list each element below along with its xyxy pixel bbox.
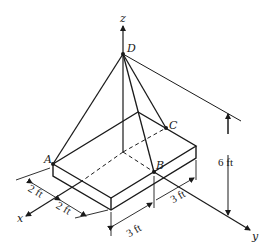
dim-2ft-2: 2 ft — [54, 199, 73, 217]
point-C — [164, 126, 168, 130]
dim-3ft-1: 3 ft — [124, 221, 143, 239]
point-markers — [51, 52, 168, 174]
point-D — [121, 52, 125, 56]
label-y: y — [251, 230, 259, 243]
label-C: C — [169, 119, 178, 132]
y-axis — [154, 172, 250, 230]
cable-DA — [53, 54, 123, 164]
plate-cable-diagram: z D A B C x y 6 ft 2 ft 2 ft 3 ft 3 ft — [0, 0, 272, 252]
reference-line-D — [123, 54, 241, 121]
label-A: A — [43, 153, 52, 166]
dim-2ft-1: 2 ft — [26, 182, 45, 200]
label-D: D — [126, 42, 136, 55]
label-z: z — [119, 12, 126, 25]
label-B: B — [155, 159, 164, 172]
label-x: x — [17, 212, 24, 225]
dim-6ft: 6 ft — [218, 156, 233, 168]
cables — [53, 54, 241, 172]
